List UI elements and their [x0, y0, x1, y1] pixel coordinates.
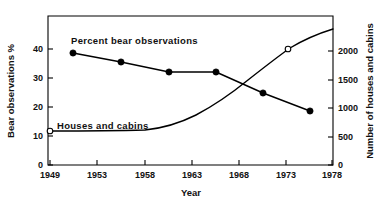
x-tick-label-1973: 1973 — [276, 170, 296, 180]
right-tick-label-0: 0 — [338, 160, 343, 170]
x-axis-title: Year — [181, 187, 201, 198]
x-tick-label-1963: 1963 — [182, 170, 202, 180]
right-axis-ticks — [328, 51, 333, 165]
right-tick-label-2: 1000 — [338, 103, 358, 113]
x-tick-label-1968: 1968 — [229, 170, 249, 180]
left-tick-label-1: 10 — [33, 131, 43, 141]
data-point — [118, 59, 124, 65]
data-point — [213, 69, 219, 75]
data-point-open — [285, 46, 291, 52]
left-tick-label-3: 30 — [33, 73, 43, 83]
x-tick-label-1978: 1978 — [322, 170, 342, 180]
line-chart: 0 10 20 30 40 0 500 1000 1500 2000 — [0, 0, 384, 204]
data-point — [70, 50, 76, 56]
x-tick-label-1953: 1953 — [87, 170, 107, 180]
annotation-houses-and-cabins: Houses and cabins — [57, 120, 149, 131]
data-point — [307, 108, 313, 114]
series-line-percent-bear-observations — [73, 53, 310, 111]
data-point-open — [47, 128, 53, 134]
y2-axis-title: Number of houses and cabins — [364, 23, 375, 159]
left-axis-ticks — [48, 49, 53, 165]
x-tick-label-1949: 1949 — [40, 170, 60, 180]
x-tick-label-1958: 1958 — [135, 170, 155, 180]
right-tick-label-1: 500 — [338, 132, 353, 142]
data-point — [260, 90, 266, 96]
x-axis-ticks — [50, 160, 332, 165]
left-tick-label-2: 20 — [33, 102, 43, 112]
right-axis-tick-labels: 0 500 1000 1500 2000 — [338, 46, 358, 170]
annotation-percent-bear-observations: Percent bear observations — [71, 35, 198, 46]
right-tick-label-3: 1500 — [338, 75, 358, 85]
left-tick-label-0: 0 — [38, 160, 43, 170]
y-axis-title: Bear observations % — [5, 43, 16, 138]
left-tick-label-4: 40 — [33, 44, 43, 54]
x-axis-tick-labels: 1949 1953 1958 1963 1968 1973 1978 — [40, 170, 342, 180]
data-point — [166, 69, 172, 75]
chart-container: 0 10 20 30 40 0 500 1000 1500 2000 — [0, 0, 384, 204]
right-tick-label-4: 2000 — [338, 46, 358, 56]
left-axis-tick-labels: 0 10 20 30 40 — [33, 44, 43, 170]
